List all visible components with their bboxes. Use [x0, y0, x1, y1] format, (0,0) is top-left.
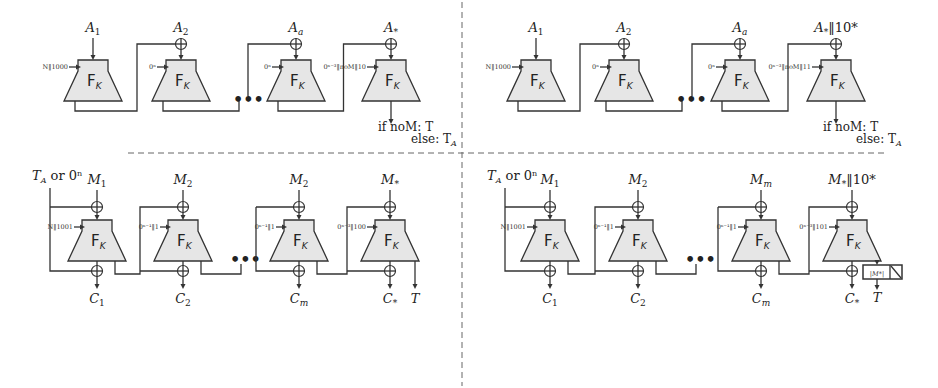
init-label: TA or 0ⁿ — [32, 168, 83, 185]
arrowhead-icon — [95, 215, 100, 220]
ciphertext-label: C* — [383, 291, 398, 308]
input-label: Aa — [732, 20, 748, 37]
arrowhead-icon — [91, 55, 96, 60]
arrowhead-icon — [179, 55, 184, 60]
tweak-label: 0ⁿ⁻¹‖1 — [255, 223, 275, 231]
arrowhead-icon — [388, 284, 393, 289]
arrowhead-icon — [297, 284, 302, 289]
ciphertext-label: C2 — [175, 291, 191, 308]
arrowhead-icon — [759, 215, 764, 220]
panel-bottom-left: TA or 0ⁿFKM1C1N‖1001FKM2C20ⁿ⁻¹‖1FKM2Cm0ⁿ… — [32, 168, 421, 308]
ciphertext-label: Cm — [290, 291, 309, 308]
tweak-label: 0ⁿ — [149, 63, 156, 71]
arrowhead-icon — [759, 284, 764, 289]
ellipsis: ••• — [685, 250, 716, 269]
arrowhead-icon — [413, 284, 418, 289]
tweak-label: 0ⁿ⁻³‖noM‖11 — [768, 63, 811, 71]
input-label: A1 — [527, 20, 543, 37]
tweak-label: 0ⁿ⁻³‖101 — [799, 223, 828, 231]
message-label: M2 — [172, 172, 192, 189]
tweak-label: 0ⁿ⁻¹‖1 — [717, 223, 737, 231]
ciphertext-label: C2 — [630, 291, 646, 308]
tag-label: T — [411, 291, 421, 306]
arrowhead-icon — [297, 215, 302, 220]
tweak-label: N‖1000 — [486, 63, 511, 71]
arrowhead-icon — [389, 55, 394, 60]
arrowhead-icon — [95, 284, 100, 289]
panel-top-left: FKA1N‖1000FKA20ⁿFKAa0ⁿFKA*0ⁿ⁻³‖noM‖10•••… — [43, 20, 458, 148]
tweak-label: 0ⁿ⁻¹‖1 — [139, 223, 159, 231]
chain-wire — [163, 101, 239, 111]
input-label: A*‖10* — [813, 20, 858, 37]
tweak-label: 0ⁿ — [708, 63, 715, 71]
truncate-label: |M*| — [870, 270, 884, 278]
ciphertext-label: C1 — [89, 291, 105, 308]
init-label: TA or 0ⁿ — [487, 168, 538, 185]
arrowhead-icon — [294, 55, 299, 60]
tweak-label: 0ⁿ — [264, 63, 271, 71]
arrowhead-icon — [738, 55, 743, 60]
output-else: else: TA — [856, 132, 902, 148]
arrowhead-icon — [181, 284, 186, 289]
arrowhead-icon — [622, 55, 627, 60]
arrowhead-icon — [850, 215, 855, 220]
message-label: Mm — [749, 172, 772, 189]
tweak-label: 0ⁿ⁻³‖noM‖10 — [323, 63, 366, 71]
output-else: else: TA — [411, 132, 457, 148]
ciphertext-label: C1 — [542, 291, 558, 308]
input-label: A2 — [615, 20, 631, 37]
message-label: M1 — [86, 172, 106, 189]
arrowhead-icon — [636, 215, 641, 220]
aead-mode-diagram: FKA1N‖1000FKA20ⁿFKAa0ⁿFKA*0ⁿ⁻³‖noM‖10•••… — [0, 0, 938, 388]
message-label: M2 — [288, 172, 308, 189]
panel-bottom-right: TA or 0ⁿFKM1C1N‖1001FKM2C20ⁿ⁻¹‖1FKMmCm0ⁿ… — [487, 168, 902, 308]
arrowhead-icon — [834, 55, 839, 60]
arrowhead-icon — [388, 215, 393, 220]
tweak-label: N‖1001 — [501, 223, 526, 231]
tweak-label: 0ⁿ⁻³‖100 — [337, 223, 366, 231]
arrowhead-icon — [548, 215, 553, 220]
message-label: M*‖10* — [827, 172, 876, 189]
panel-top-right: FKA1N‖1000FKA20ⁿFKAa0ⁿFKA*‖10*0ⁿ⁻³‖noM‖1… — [486, 20, 903, 148]
arrowhead-icon — [534, 55, 539, 60]
tweak-label: N‖1000 — [43, 63, 68, 71]
message-label: M1 — [539, 172, 559, 189]
input-label: A2 — [172, 20, 188, 37]
ciphertext-label: Cm — [752, 291, 771, 308]
arrowhead-icon — [850, 284, 855, 289]
arrowhead-icon — [181, 215, 186, 220]
ciphertext-label: C* — [845, 291, 860, 308]
message-label: M* — [380, 172, 399, 189]
arrowhead-icon — [636, 284, 641, 289]
message-label: M2 — [627, 172, 647, 189]
ellipsis: ••• — [676, 90, 707, 109]
arrowhead-icon — [548, 284, 553, 289]
chain-wire — [606, 101, 682, 111]
tweak-label: N‖1001 — [48, 223, 73, 231]
panel-dividers — [128, 2, 885, 386]
tag-label: T — [873, 290, 883, 305]
input-label: A1 — [84, 20, 100, 37]
tweak-label: 0ⁿ — [592, 63, 599, 71]
tweak-label: 0ⁿ⁻¹‖1 — [594, 223, 614, 231]
input-label: Aa — [288, 20, 304, 37]
input-label: A* — [383, 20, 398, 37]
